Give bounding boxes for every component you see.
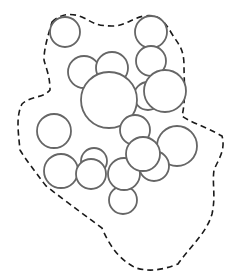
circle-node — [144, 70, 186, 112]
circle-node — [76, 159, 106, 189]
circle-node — [37, 114, 71, 148]
circle-group — [37, 16, 197, 214]
circle-node — [126, 137, 160, 171]
circle-node — [44, 154, 78, 188]
circle-node — [50, 17, 80, 47]
circle-cluster-diagram — [0, 0, 237, 279]
circle-node — [135, 16, 167, 48]
